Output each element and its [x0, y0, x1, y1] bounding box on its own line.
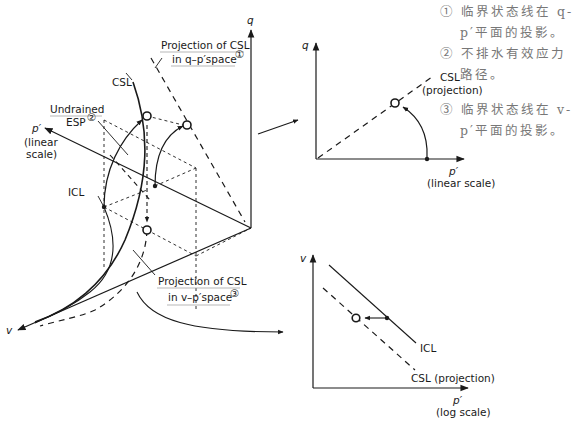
undrained-esp-arrow-2 — [155, 126, 183, 186]
v-p-icl-label: ICL — [420, 342, 436, 354]
undrained-esp-arrow-1 — [104, 120, 142, 207]
note-3-line-2: p′平面的投影。 — [440, 120, 580, 141]
proj-v-label-1: Projection of CSL — [158, 275, 247, 287]
p-axis-sub-2: scale) — [26, 148, 57, 160]
annotation-notes: ① 临界状态线在 q- p′平面的投影。 ② 不排水有效应力 路径。 ③ 临界状… — [440, 1, 580, 141]
v-p-icl-line — [329, 265, 416, 343]
start-point-icl — [102, 205, 106, 209]
proj-q-sup: ① — [235, 48, 244, 60]
v-p-y-label: v — [300, 252, 307, 264]
csl-point-v-p — [143, 226, 151, 234]
v-p-x-label: p′ — [452, 394, 463, 406]
v-p-start-point — [385, 316, 389, 320]
q-p-start-point — [425, 157, 429, 161]
esp-sup: ② — [87, 111, 96, 123]
q-p-csl-point — [391, 99, 399, 107]
v-axis-label: v — [6, 324, 13, 336]
csl-label: CSL — [112, 76, 132, 88]
note-1-line-2: p′平面的投影。 — [440, 22, 580, 43]
q-p-x-label: p′ — [448, 165, 459, 177]
esp-label: ESP — [66, 116, 86, 128]
q-p-x-sub: (linear scale) — [427, 177, 495, 189]
q-p-undrained-path — [403, 107, 427, 157]
csl-point-q-p — [183, 121, 191, 129]
proj-v-sup: ③ — [230, 287, 239, 299]
note-3-line-1: ③ 临界状态线在 v- — [440, 99, 580, 120]
csl-projection-q-p — [151, 58, 245, 222]
v-p-x-sub: (log scale) — [436, 406, 491, 418]
csl-point-3d — [143, 112, 151, 120]
note-2-line-2: 路径。 — [440, 64, 580, 85]
proj-v-label-2: in v–p′space — [168, 291, 232, 303]
start-point-proj — [153, 184, 157, 188]
v-p-csl-label: CSL (projection) — [411, 372, 495, 384]
q-p-y-label: q — [302, 39, 309, 51]
p-axis-sub-1: (linear — [24, 136, 58, 148]
p-axis-label: p′ — [31, 122, 42, 134]
proj-q-label-2: in q–p′space — [172, 53, 237, 65]
v-p-plot — [313, 255, 468, 388]
note-2-line-1: ② 不排水有效应力 — [440, 43, 580, 64]
q-axis-label: q — [247, 14, 254, 26]
link-arrow-q-p — [258, 120, 298, 134]
v-p-csl-point — [352, 314, 360, 322]
csl-projection-v-p — [40, 230, 147, 326]
note-1-line-1: ① 临界状态线在 q- — [440, 1, 580, 22]
icl-label: ICL — [68, 186, 84, 198]
